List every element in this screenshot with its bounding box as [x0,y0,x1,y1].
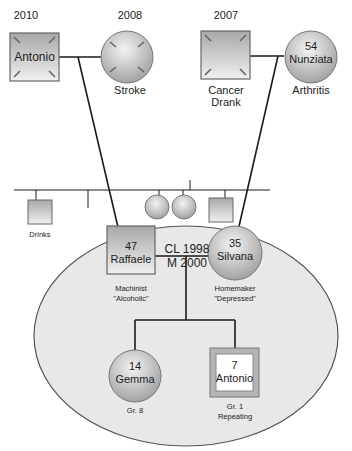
mgf-note-1: Cancer [196,85,256,96]
husband-name: Raffaele [107,253,155,266]
daughter-age: 14 [109,360,161,373]
daughter-name: Gemma [109,373,161,386]
son-age: 7 [210,359,259,372]
mgm-age: 54 [285,40,337,53]
son-note-1: Gr. 1 [205,402,265,412]
pgm-note: Stroke [100,85,160,96]
mgf-note-2: Drank [196,97,256,108]
pgf-year: 2010 [6,9,46,21]
mgm-note: Arthritis [281,85,341,96]
maternal-aunt-1-symbol [145,195,169,219]
wife-name: Silvana [208,250,262,263]
paternal-uncle-symbol [28,200,52,224]
son-name: Antonio [210,372,259,385]
paternal-uncle-note: Drinks [20,230,60,240]
wife-note-1: Homemaker [205,284,265,294]
maternal-aunt-2-symbol [172,195,196,219]
husband-age: 47 [107,240,155,253]
pgm-year: 2008 [110,9,150,21]
mgm-name: Nunziata [285,53,337,66]
husband-note-1: Machinist [101,284,161,294]
pgf-name: Antonio [10,51,59,64]
paternal-grandmother-symbol [101,31,153,83]
maternal-uncle-symbol [209,198,233,222]
wife-age: 35 [208,237,262,250]
son-note-2: Repeating [205,412,265,422]
maternal-grandfather-symbol [201,31,250,79]
genogram-canvas [0,0,352,451]
wife-note-2: "Depressed" [205,294,265,304]
husband-note-2: "Alcoholic" [101,294,161,304]
daughter-note: Gr. 8 [115,406,155,416]
mgf-year: 2007 [206,9,246,21]
